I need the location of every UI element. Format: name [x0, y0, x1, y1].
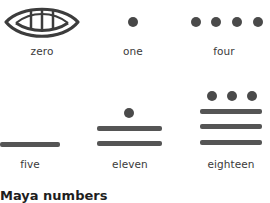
dot-icon: [191, 17, 201, 27]
numeral-label-zero: zero: [31, 45, 54, 57]
numeral-label-four: four: [213, 45, 235, 57]
dot-icon: [207, 91, 217, 101]
dot-icon: [232, 17, 242, 27]
bar-icon: [200, 124, 262, 129]
numeral-label-five: five: [20, 158, 40, 170]
bar-icon: [97, 141, 162, 146]
dot-icon: [211, 17, 221, 27]
numeral-label-one: one: [123, 45, 143, 57]
dot-icon: [128, 17, 138, 27]
dot-icon: [253, 17, 263, 27]
bar-icon: [0, 142, 60, 147]
bar-icon: [200, 140, 262, 145]
dot-icon: [227, 91, 237, 101]
bar-icon: [97, 126, 162, 131]
dot-icon: [247, 91, 257, 101]
shell-icon: [3, 3, 81, 43]
dot-icon: [124, 108, 134, 118]
figure-title: Maya numbers: [0, 188, 107, 203]
bar-icon: [200, 109, 262, 114]
numeral-label-eleven: eleven: [112, 158, 148, 170]
numeral-label-eighteen: eighteen: [207, 158, 254, 170]
